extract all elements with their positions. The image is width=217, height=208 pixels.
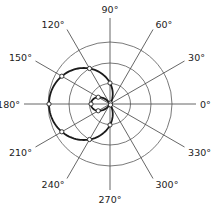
spoke-30 (110, 61, 185, 104)
marker-330 (96, 95, 100, 99)
angle-label-60: 60° (156, 19, 173, 30)
marker-150 (60, 74, 64, 78)
angle-label-210: 210° (9, 147, 32, 158)
spoke-300 (110, 104, 153, 179)
marker-240 (87, 137, 91, 141)
spoke-330 (110, 104, 185, 147)
angle-labels: 0°30°60°90°120°150°180°210°240°270°300°3… (0, 4, 211, 205)
marker-0 (89, 102, 93, 106)
angle-label-150: 150° (9, 52, 32, 63)
marker-300 (108, 103, 112, 107)
angle-label-330: 330° (188, 147, 211, 158)
polar-plot: 0°30°60°90°120°150°180°210°240°270°300°3… (0, 0, 217, 208)
angle-label-300: 300° (156, 179, 179, 190)
angle-label-180: 180° (0, 99, 20, 110)
marker-120 (87, 66, 91, 70)
marker-180 (47, 102, 51, 106)
marker-90 (108, 81, 112, 85)
angle-label-0: 0° (200, 99, 211, 110)
marker-210 (60, 130, 64, 134)
angle-label-90: 90° (102, 4, 119, 15)
angle-label-270: 270° (99, 194, 122, 205)
marker-30 (96, 109, 100, 113)
angle-label-30: 30° (188, 52, 205, 63)
angle-label-120: 120° (42, 19, 65, 30)
marker-270 (108, 123, 112, 127)
spoke-60 (110, 30, 153, 105)
angle-label-240: 240° (42, 179, 65, 190)
